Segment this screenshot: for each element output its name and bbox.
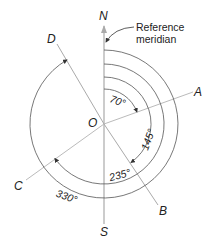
diagram-canvas: N S O A B C D Reference meridian 70° 145… <box>0 0 207 248</box>
angle-label-235: 235° <box>107 166 132 183</box>
line-OD <box>57 44 104 124</box>
label-O: O <box>88 116 97 130</box>
reference-label-line2: meridian <box>136 33 176 45</box>
reference-callout-arrow <box>106 27 134 42</box>
label-C: C <box>14 179 23 193</box>
arc-235 <box>55 64 164 184</box>
label-A: A <box>193 85 202 99</box>
angle-label-330: 330° <box>55 187 80 206</box>
label-N: N <box>99 9 108 23</box>
label-D: D <box>47 32 56 46</box>
line-OC <box>26 124 104 180</box>
angle-label-70: 70° <box>108 92 127 109</box>
reference-label-line1: Reference <box>136 21 185 33</box>
azimuth-diagram: N S O A B C D Reference meridian 70° 145… <box>0 0 207 248</box>
angle-label-145: 145° <box>138 127 157 152</box>
north-arrow-icon <box>101 25 107 33</box>
label-S-bottom: S <box>100 225 108 239</box>
label-B: B <box>159 204 167 218</box>
